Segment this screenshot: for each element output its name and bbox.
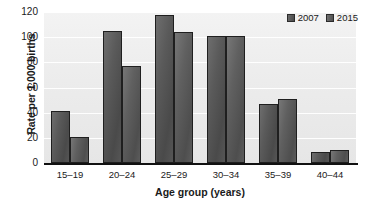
bar-2007-20-24[interactable] <box>103 31 122 163</box>
legend-item-2007: 2007 <box>287 13 319 23</box>
bar-group-40-44 <box>304 12 356 163</box>
bar-2007-30-34[interactable] <box>207 36 226 163</box>
legend-label-2015: 2015 <box>337 13 358 23</box>
bar-2015-35-39[interactable] <box>278 99 297 163</box>
legend-label-2007: 2007 <box>298 13 319 23</box>
y-axis-tick-0: 0 <box>32 158 38 168</box>
legend-swatch-2015-icon <box>326 14 334 22</box>
bar-group-35-39 <box>252 12 304 163</box>
bar-2007-40-44[interactable] <box>311 152 330 163</box>
x-axis-tick-25-29: 25–29 <box>148 169 200 180</box>
y-axis-tick-120: 120 <box>21 7 38 17</box>
bar-series-container <box>44 12 356 163</box>
bar-2015-15-19[interactable] <box>70 137 89 163</box>
bar-group-30-34 <box>200 12 252 163</box>
y-axis-tick-60: 60 <box>27 83 38 93</box>
bar-2015-20-24[interactable] <box>122 66 141 163</box>
x-axis-title: Age group (years) <box>44 186 356 198</box>
y-axis-tick-80: 80 <box>27 57 38 67</box>
bar-2015-30-34[interactable] <box>226 36 245 163</box>
chart-legend: 2007 2015 <box>287 13 358 23</box>
legend-item-2015: 2015 <box>326 13 358 23</box>
bar-2007-15-19[interactable] <box>51 111 70 163</box>
bar-2007-25-29[interactable] <box>155 15 174 163</box>
bar-chart-figure: Rate per 1,000 births 120100806040200 20… <box>0 0 366 207</box>
bar-group-15-19 <box>44 12 96 163</box>
bar-group-25-29 <box>148 12 200 163</box>
x-axis-line <box>44 163 358 165</box>
x-axis-tick-40-44: 40–44 <box>304 169 356 180</box>
x-axis-tick-20-24: 20–24 <box>96 169 148 180</box>
bar-2007-35-39[interactable] <box>259 104 278 163</box>
y-axis-tick-100: 100 <box>21 32 38 42</box>
bar-group-20-24 <box>96 12 148 163</box>
legend-swatch-2007-icon <box>287 14 295 22</box>
y-axis-tick-labels: 120100806040200 <box>0 0 42 207</box>
bar-2015-25-29[interactable] <box>174 32 193 163</box>
x-axis-tick-30-34: 30–34 <box>200 169 252 180</box>
bar-2015-40-44[interactable] <box>330 150 349 163</box>
y-axis-tick-40: 40 <box>27 108 38 118</box>
x-axis-tick-15-19: 15–19 <box>44 169 96 180</box>
x-axis-tick-35-39: 35–39 <box>252 169 304 180</box>
x-axis-tick-labels: 15–1920–2425–2930–3435–3940–44 <box>44 169 356 180</box>
y-axis-tick-20: 20 <box>27 133 38 143</box>
